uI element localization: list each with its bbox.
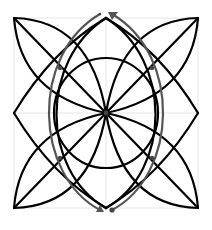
diagram-canvas: Geometric rosette construction <box>0 0 212 230</box>
rosette-diagram <box>0 0 212 230</box>
end-dot <box>109 207 114 212</box>
start-dot <box>99 13 101 15</box>
